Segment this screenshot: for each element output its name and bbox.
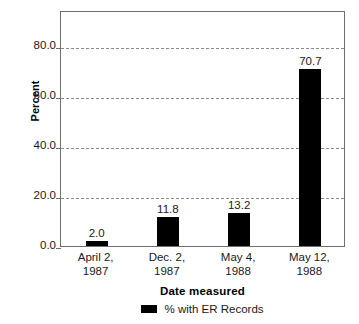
bar-value-label: 70.7	[299, 55, 321, 67]
bar-value-label: 13.2	[228, 199, 250, 211]
plot-area: 2.011.813.270.7	[60, 11, 345, 247]
bar-chart: Percent 0.0 20.0 40.0 60.0 80.0 2.011.81…	[0, 0, 359, 324]
x-tick-label: May 4,1988	[198, 250, 278, 278]
chart-legend: % with ER Records	[60, 303, 345, 315]
bars-layer: 2.011.813.270.7	[61, 12, 344, 246]
x-tick-label-line: 1987	[127, 264, 207, 278]
x-tick-label-line: Dec. 2,	[149, 251, 185, 263]
x-tick-label-line: 1988	[269, 264, 349, 278]
y-tick-label: 20.0	[16, 189, 56, 201]
legend-label: % with ER Records	[164, 303, 263, 315]
bar	[228, 213, 250, 246]
x-tick-label-line: May 12,	[289, 251, 330, 263]
x-tick-label-line: May 4,	[221, 251, 256, 263]
legend-swatch-icon	[141, 305, 157, 313]
y-tick-label: 60.0	[16, 89, 56, 101]
x-tick-label: Dec. 2,1987	[127, 250, 207, 278]
bar-value-label: 11.8	[157, 203, 179, 215]
y-tick-mark	[56, 248, 61, 249]
y-axis-tick-labels: 0.0 20.0 40.0 60.0 80.0	[12, 0, 56, 324]
bar-value-label: 2.0	[89, 227, 105, 239]
y-tick-label: 0.0	[16, 239, 56, 251]
x-tick-label: May 12,1988	[269, 250, 349, 278]
x-tick-label-line: 1988	[198, 264, 278, 278]
y-tick-label: 40.0	[16, 139, 56, 151]
bar	[86, 241, 108, 246]
bar	[299, 69, 321, 246]
x-tick-label-line: 1987	[56, 264, 136, 278]
x-tick-label-line: April 2,	[78, 251, 114, 263]
x-axis-title: Date measured	[60, 285, 345, 297]
x-tick-label: April 2,1987	[56, 250, 136, 278]
y-tick-label: 80.0	[16, 39, 56, 51]
x-axis-tick-labels: April 2,1987Dec. 2,1987May 4,1988May 12,…	[60, 250, 345, 284]
bar	[157, 217, 179, 246]
